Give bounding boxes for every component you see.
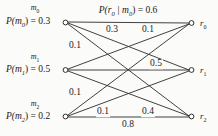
node-r1 (189, 68, 194, 73)
edge-label-m2-r1: 0.1 (96, 107, 110, 117)
edge-label-m1-r0: 0.1 (141, 25, 155, 35)
edge-label-m2-r2: 0.8 (121, 120, 135, 130)
edge-label-m0-r1: 0.3 (105, 25, 119, 35)
channel-diagram-figure: m0 m1 m2 P(m0) = 0.3 P(m1) = 0.5 P(m2) =… (0, 0, 218, 136)
node-m1 (63, 68, 68, 73)
node-m0 (63, 20, 68, 25)
node-r2 (189, 114, 194, 119)
edge-label-m1-r2: 0.4 (141, 107, 155, 117)
edge-m0-r0 (68, 22, 189, 23)
node-m2 (63, 114, 68, 119)
node-label-r0: r0 (200, 19, 207, 30)
node-label-r2: r2 (200, 112, 207, 123)
conditional-probability-annotation: P(r0 | m0) = 0.6 (97, 6, 160, 17)
node-label-r1: r1 (200, 66, 207, 77)
prior-label-m1: P(m1) = 0.5 (6, 65, 50, 76)
prior-label-m0: P(m0) = 0.3 (6, 17, 50, 28)
edge-label-m0-r2: 0.1 (68, 41, 82, 51)
node-label-m2: m2 (31, 100, 40, 110)
prior-label-m2: P(m2) = 0.2 (6, 112, 50, 123)
edge-label-m2-r0: 0.1 (68, 88, 82, 98)
node-label-m0: m0 (31, 4, 40, 14)
node-label-m1: m1 (31, 53, 40, 63)
edge-label-m1-r1: 0.5 (149, 59, 163, 69)
node-r0 (189, 21, 194, 26)
edge-m1-r0 (68, 24, 189, 69)
